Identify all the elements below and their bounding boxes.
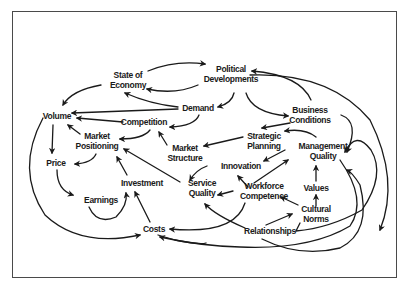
node-label-line: Strategic [247,131,281,141]
arrow-volume-to-price [52,125,53,153]
node-state-of-economy: State ofEconomy [110,70,146,90]
node-label-line: Quality [299,151,348,161]
arrow-management-quality-to-strategic-planning [285,130,316,137]
arrow-political-developments-to-demand [218,93,234,107]
node-strategic-planning: StrategicPlanning [247,131,281,151]
node-label-line: Structure [167,153,202,163]
causal-arrows [0,0,409,292]
node-cultural-norms: CulturalNorms [301,204,331,224]
node-competition: Competition [121,117,167,127]
node-demand: Demand [182,103,214,113]
node-label-line: Quality [188,188,216,198]
arrow-costs-to-investment [135,192,150,222]
node-label-line: Demand [182,103,214,113]
node-label-line: Cultural [301,204,331,214]
arrow-strategic-planning-to-innovation [264,150,285,161]
arrow-political-developments-to-state-of-economy [147,85,198,91]
node-label-line: Price [46,158,65,168]
node-management-quality: ManagementQuality [299,141,348,161]
node-label-line: Investment [121,178,163,188]
arrow-state-of-economy-to-volume [63,85,101,105]
arrow-demand-to-volume [72,109,178,113]
arrow-relationships-to-cultural-norms [266,214,292,225]
node-label-line: Costs [143,224,165,234]
node-label-line: Market [167,143,202,153]
node-political-developments: PoliticalDevelopments [204,64,259,84]
node-relationships: Relationships [244,226,296,236]
arrow-strategic-planning-to-market-structure [204,137,243,146]
node-label-line: Positioning [76,141,119,151]
node-label-line: Developments [204,74,259,84]
node-costs: Costs [143,224,165,234]
arrow-price-to-earnings [57,170,73,195]
node-label-line: Service [188,178,216,188]
node-label-line: Norms [301,214,331,224]
node-label-line: Economy [110,80,146,90]
node-label-line: Political [204,64,259,74]
arrow-workforce-competence-to-service-quality [218,191,233,195]
arrow-political-developments-to-business-conditions [246,93,288,116]
node-investment: Investment [121,178,163,188]
node-label-line: Competition [121,117,167,127]
node-label-line: Volume [43,111,71,121]
arrow-competition-to-volume [77,118,123,122]
node-business-conditions: BusinessConditions [289,105,330,125]
node-volume: Volume [43,111,71,121]
node-market-positioning: MarketPositioning [76,131,119,151]
node-label-line: Relationships [244,226,296,236]
arrow-business-conditions-to-strategic-planning [262,123,290,128]
node-market-structure: MarketStructure [167,143,202,163]
node-innovation: Innovation [221,161,261,171]
node-label-line: Innovation [221,161,261,171]
node-earnings: Earnings [84,195,118,205]
node-label-line: Conditions [289,115,330,125]
arrow-demand-to-competition [170,115,199,127]
node-label-line: Values [303,183,328,193]
node-label-line: Market [76,131,119,141]
arrow-investment-to-market-positioning [117,157,127,175]
arrow-state-of-economy-to-political-developments [148,63,205,71]
node-label-line: State of [110,70,146,80]
node-price: Price [46,158,65,168]
arrow-market-structure-to-competition [159,132,167,145]
node-label-line: Earnings [84,195,118,205]
node-label-line: Management [299,141,348,151]
node-label-line: Competence [240,191,288,201]
node-label-line: Planning [247,141,281,151]
node-label-line: Business [289,105,330,115]
node-label-line: Workforce [240,181,288,191]
arrow-competition-to-market-positioning [120,130,150,139]
arrow-demand-to-state-of-economy [125,93,178,107]
arrow-market-positioning-to-price [75,154,96,164]
node-workforce-competence: WorkforceCompetence [240,181,288,201]
node-values: Values [303,183,328,193]
node-service-quality: ServiceQuality [188,178,216,198]
